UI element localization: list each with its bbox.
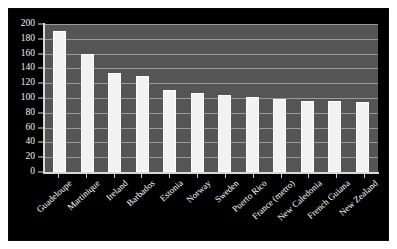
bar <box>273 99 286 172</box>
y-axis-tick-mark <box>38 127 43 128</box>
bar <box>218 95 231 172</box>
x-axis-tick-mark <box>308 174 309 178</box>
y-axis-tick-label: 100 <box>21 93 35 103</box>
x-axis-category-label: Norway <box>185 178 213 205</box>
y-axis-tick-label: 140 <box>21 64 35 74</box>
bar-chart-figure: 200180160140120100806040200 GuadeloupeMa… <box>0 0 397 249</box>
x-axis-category-label: Guadeloupe <box>35 178 74 215</box>
bar <box>328 101 341 172</box>
y-axis-tick-label: 120 <box>21 78 35 88</box>
x-axis-tick-mark <box>58 174 59 178</box>
bar <box>81 54 94 172</box>
bar <box>136 76 149 172</box>
y-axis-tick-mark <box>38 68 43 69</box>
chart-panel: 200180160140120100806040200 GuadeloupeMa… <box>8 8 389 241</box>
x-axis-tick-mark <box>253 174 254 178</box>
x-axis-tick-mark <box>169 174 170 178</box>
y-axis-tick-mark <box>38 98 43 99</box>
x-axis-line <box>43 172 379 174</box>
bar <box>108 73 121 172</box>
y-axis-tick-label: 160 <box>21 49 35 59</box>
x-axis-tick-mark <box>281 174 282 178</box>
bar <box>356 102 369 172</box>
x-axis-tick-mark <box>336 174 337 178</box>
x-axis-tick-mark <box>114 174 115 178</box>
y-axis-tick-label: 60 <box>26 123 36 133</box>
y-axis-tick-mark <box>38 24 43 25</box>
x-axis-tick-mark <box>364 174 365 178</box>
y-axis-tick-label: 40 <box>26 138 36 148</box>
bars-container <box>44 24 378 172</box>
plot-area <box>44 24 378 172</box>
bar <box>53 31 66 172</box>
y-axis-tick-label: 180 <box>21 34 35 44</box>
y-axis-tick-mark <box>38 38 43 39</box>
x-axis-tick-mark <box>197 174 198 178</box>
x-axis-tick-mark <box>225 174 226 178</box>
x-axis-tick-mark <box>141 174 142 178</box>
y-axis-tick-mark <box>38 142 43 143</box>
y-axis-tick-label: 200 <box>21 19 35 29</box>
bar <box>191 93 204 172</box>
y-axis-tick-label: 20 <box>26 152 36 162</box>
y-axis-tick-labels: 200180160140120100806040200 <box>9 24 43 172</box>
bar <box>301 101 314 172</box>
x-axis-tick-mark <box>86 174 87 178</box>
y-axis-tick-mark <box>38 83 43 84</box>
x-axis-category-label: Estonia <box>158 178 185 203</box>
bar <box>163 90 176 172</box>
x-axis-category-labels: GuadeloupeMartiniqueIrelandBarbadosEston… <box>44 178 378 240</box>
bar <box>246 97 259 172</box>
y-axis-tick-label: 0 <box>30 167 35 177</box>
y-axis-line <box>43 23 45 173</box>
y-axis-tick-mark <box>38 157 43 158</box>
y-axis-tick-mark <box>38 112 43 113</box>
x-axis-category-label: Barbados <box>125 178 157 208</box>
y-axis-tick-label: 80 <box>26 108 36 118</box>
y-axis-tick-mark <box>38 53 43 54</box>
